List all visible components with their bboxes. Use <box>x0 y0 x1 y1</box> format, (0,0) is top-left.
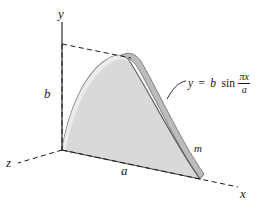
equation-fraction: πx a <box>238 72 249 95</box>
equation-equals: = <box>198 77 205 89</box>
z-axis <box>18 150 62 163</box>
diagram-svg: y x z b a m <box>0 0 257 208</box>
curve-equation-label: y = b sin πx a <box>188 72 250 95</box>
width-dimension-label: a <box>121 163 128 178</box>
equation-function: sin <box>221 77 234 89</box>
equation-denominator: a <box>238 85 249 96</box>
equation-coefficient: b <box>210 77 216 89</box>
mass-label: m <box>194 142 202 154</box>
y-axis-label: y <box>56 6 64 21</box>
equation-numerator: πx <box>238 72 249 83</box>
equation-leader-line <box>167 81 186 99</box>
lamina-front-face <box>62 55 200 179</box>
x-axis-label: x <box>239 186 246 201</box>
z-axis-label: z <box>5 155 11 170</box>
equation-lhs: y <box>188 77 193 89</box>
height-construction-line <box>62 44 131 58</box>
figure-container: y x z b a m y = b sin πx a <box>0 0 257 208</box>
height-dimension-label: b <box>44 86 51 101</box>
